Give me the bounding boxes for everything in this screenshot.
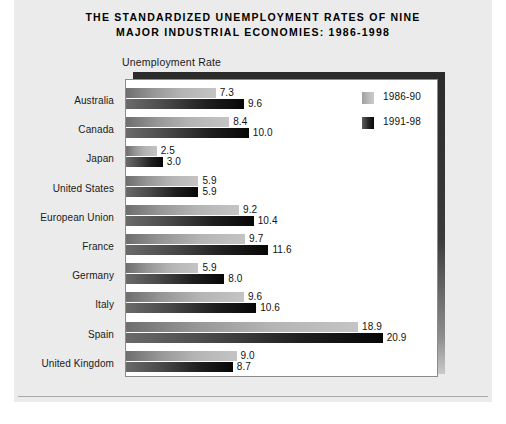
bar-1991-98 (126, 245, 268, 255)
bar-1991-98 (126, 157, 163, 167)
bar-value-label: 8.7 (237, 361, 251, 372)
bar-1986-90 (126, 292, 244, 302)
category-axis-labels: AustraliaCanadaJapanUnited StatesEuropea… (0, 79, 120, 377)
chart-title: THE STANDARDIZED UNEMPLOYMENT RATES OF N… (14, 10, 492, 40)
bar-value-label: 18.9 (362, 321, 382, 332)
bar-value-label: 11.6 (272, 244, 291, 255)
bar-1986-90 (126, 176, 198, 186)
bar-1986-90 (126, 234, 245, 244)
category-label: European Union (40, 212, 114, 223)
bar-value-label: 10.4 (258, 215, 278, 226)
bar-1986-90 (126, 88, 216, 98)
bar-1986-90 (126, 117, 229, 127)
bars-container: 7.39.68.410.02.53.05.95.99.210.49.711.65… (126, 79, 438, 377)
bar-value-label: 9.2 (243, 204, 257, 215)
bar-1991-98 (126, 99, 244, 109)
bar-value-label: 3.0 (167, 156, 181, 167)
bar-value-label: 9.7 (249, 233, 263, 244)
bar-1991-98 (126, 303, 256, 313)
bar-1991-98 (126, 216, 254, 226)
category-label: Italy (95, 299, 114, 310)
bar-1986-90 (126, 205, 239, 215)
bottom-divider-rule (18, 396, 488, 397)
bar-value-label: 5.9 (202, 175, 216, 186)
bar-value-label: 9.0 (241, 350, 255, 361)
category-label: Australia (74, 95, 114, 106)
category-label: Japan (86, 153, 114, 164)
bar-1991-98 (126, 128, 249, 138)
bar-value-label: 5.9 (202, 186, 216, 197)
bar-1986-90 (126, 263, 198, 273)
category-label: Spain (88, 329, 114, 340)
chart-title-line-1: THE STANDARDIZED UNEMPLOYMENT RATES OF N… (14, 10, 492, 25)
category-label: France (82, 241, 114, 252)
bar-value-label: 10.0 (253, 127, 273, 138)
axis-label-unemployment-rate: Unemployment Rate (122, 56, 221, 68)
bar-value-label: 9.6 (248, 98, 262, 109)
plot-shadow-right (438, 72, 445, 374)
bar-1986-90 (126, 146, 157, 156)
bar-1991-98 (126, 274, 224, 284)
category-label: Germany (72, 270, 114, 281)
bar-1991-98 (126, 187, 198, 197)
bar-value-label: 8.4 (233, 116, 247, 127)
bar-value-label: 8.0 (228, 273, 242, 284)
bar-value-label: 9.6 (248, 291, 262, 302)
bar-1991-98 (126, 333, 383, 343)
bar-value-label: 2.5 (161, 145, 175, 156)
bar-value-label: 10.6 (260, 302, 280, 313)
bar-value-label: 20.9 (387, 332, 407, 343)
bar-1986-90 (126, 322, 358, 332)
category-label: United Kingdom (41, 358, 114, 369)
bar-value-label: 5.9 (202, 262, 216, 273)
bar-1991-98 (126, 362, 233, 372)
bar-1986-90 (126, 351, 237, 361)
plot-shadow-top (133, 72, 445, 79)
chart-title-line-2: MAJOR INDUSTRIAL ECONOMIES: 1986-1998 (14, 25, 492, 40)
bar-value-label: 7.3 (220, 87, 234, 98)
category-label: United States (53, 183, 114, 194)
category-label: Canada (78, 124, 114, 135)
